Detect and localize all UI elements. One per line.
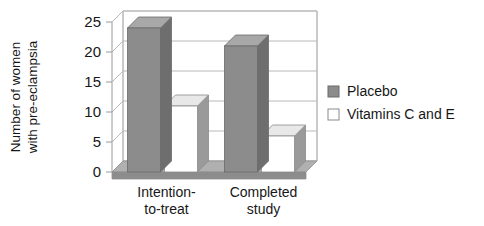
y-axis-title-line: with pre-eclampsia (25, 40, 40, 154)
y-axis-tick-label: 20 (84, 43, 101, 60)
x-axis-category-label: to-treat (144, 201, 188, 217)
bar-front-face (128, 28, 161, 172)
bar-placebo-intention-to-treat: Placebo — Intention-to-treat: 24 (128, 17, 172, 172)
bar-side-face (198, 95, 209, 172)
legend-swatch-filled-gray-square (328, 86, 339, 97)
axis-depth-tick (112, 101, 123, 112)
bar-side-face (258, 35, 269, 172)
y-axis-title-line: Number of women (8, 42, 23, 152)
bar-side-face (161, 17, 172, 172)
floor-front (112, 172, 306, 179)
legend-swatch-outlined-white-square (328, 109, 339, 120)
legend-label: Placebo (347, 83, 398, 99)
axis-depth-tick (112, 11, 123, 22)
y-axis-tick-label: 25 (84, 13, 101, 30)
y-axis-tick-label: 10 (84, 103, 101, 120)
bar-placebo-completed-study: Placebo — Completed study: 21 (225, 35, 269, 172)
axis-depth-tick (112, 71, 123, 82)
y-axis-tick-label: 15 (84, 73, 101, 90)
axis-depth-tick (112, 131, 123, 142)
axis-depth-tick (112, 41, 123, 52)
bar-chart-svg: 0510152025Vitamins C and E — Completed s… (0, 0, 484, 226)
x-axis-category-label: Completed (230, 184, 298, 200)
y-axis-tick-label: 0 (93, 163, 101, 180)
chart-figure: 0510152025Vitamins C and E — Completed s… (0, 0, 484, 226)
y-axis-tick-label: 5 (93, 133, 101, 150)
x-axis-category-label: Intention- (137, 184, 196, 200)
x-axis-category-label: study (247, 201, 280, 217)
legend-label: Vitamins C and E (347, 106, 455, 122)
bar-front-face (225, 46, 258, 172)
